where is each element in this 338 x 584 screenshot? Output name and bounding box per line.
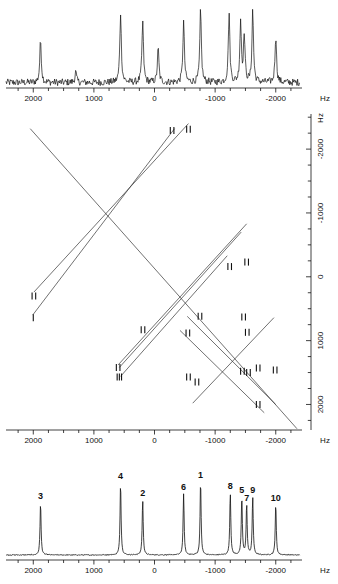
cross-peak-marker: [273, 366, 277, 373]
y-axis-tick-label: 0: [316, 274, 325, 279]
x-axis-tick-label: 1000: [85, 566, 103, 575]
x-axis-tick-label: 2000: [24, 566, 42, 575]
correlation-line: [33, 129, 175, 315]
peak-label-7: 7: [244, 493, 249, 503]
cross-peak-marker: [256, 365, 260, 372]
cross-peak-marker: [170, 127, 174, 134]
y-axis-tick-label: 2000: [316, 395, 325, 413]
bottom-spectrum-trace: [6, 488, 300, 556]
cross-peak-marker: [187, 374, 191, 381]
x-axis-tick-label: -1000: [205, 436, 226, 445]
peak-label-3: 3: [38, 491, 43, 501]
x-axis-unit-label: Hz: [320, 566, 330, 575]
cross-peak-marker: [228, 263, 232, 270]
cross-peak-marker: [247, 369, 251, 376]
correlation-line: [30, 129, 297, 429]
peak-label-1: 1: [198, 470, 203, 480]
cross-peak-marker: [32, 292, 36, 299]
y-axis-tick-label: -2000: [316, 138, 325, 159]
cross-peak-marker: [186, 329, 190, 336]
correlation-line: [118, 224, 247, 365]
cross-peak-marker: [116, 364, 120, 371]
cross-peak-marker: [117, 374, 121, 381]
peak-label-10: 10: [271, 493, 281, 503]
y-axis-tick-label: -1000: [316, 202, 325, 223]
cross-peak-marker: [245, 259, 249, 266]
correlation-map-panel: 200010000-1000-2000Hz-2000-1000010002000…: [0, 108, 338, 458]
x-axis-tick-label: 0: [152, 94, 157, 103]
correlation-line: [34, 124, 189, 293]
cross-peak-marker: [141, 326, 145, 333]
cross-peak-marker: [195, 379, 199, 386]
bottom-spectrum-svg: 34261857910200010000-1000-2000Hz: [0, 458, 338, 584]
cross-peak-marker: [198, 313, 202, 320]
peak-label-6: 6: [181, 482, 186, 492]
y-axis-unit-label: Hz: [316, 113, 325, 123]
correlation-line: [119, 232, 241, 367]
x-axis-tick-label: 1000: [85, 94, 103, 103]
x-axis-tick-label: 0: [152, 436, 157, 445]
top-projection-spectrum-panel: 200010000-1000-2000Hz: [0, 0, 338, 108]
top-spectrum-svg: 200010000-1000-2000Hz: [0, 0, 338, 108]
top-spectrum-trace: [6, 9, 300, 85]
correlation-line: [180, 330, 264, 412]
peak-label-2: 2: [140, 488, 145, 498]
x-axis-tick-label: 0: [152, 566, 157, 575]
peak-label-9: 9: [250, 485, 255, 495]
correlation-map-svg: 200010000-1000-2000Hz-2000-1000010002000…: [0, 108, 338, 458]
x-axis-unit-label: Hz: [320, 94, 330, 103]
cross-peak-marker: [242, 314, 246, 321]
bottom-assigned-spectrum-panel: 34261857910200010000-1000-2000Hz: [0, 458, 338, 584]
x-axis-tick-label: 1000: [85, 436, 103, 445]
cross-peak-marker: [187, 126, 191, 133]
x-axis-tick-label: -2000: [266, 94, 287, 103]
x-axis-tick-label: -2000: [266, 566, 287, 575]
peak-label-4: 4: [118, 471, 123, 481]
x-axis-tick-label: 2000: [24, 436, 42, 445]
x-axis-tick-label: -1000: [205, 94, 226, 103]
peak-label-8: 8: [228, 481, 233, 491]
x-axis-tick-label: -2000: [266, 436, 287, 445]
x-axis-unit-label: Hz: [320, 436, 330, 445]
x-axis-tick-label: -1000: [205, 566, 226, 575]
cross-peak-marker: [245, 329, 249, 336]
x-axis-tick-label: 2000: [24, 94, 42, 103]
y-axis-tick-label: 1000: [316, 331, 325, 349]
correlation-line: [121, 256, 228, 377]
